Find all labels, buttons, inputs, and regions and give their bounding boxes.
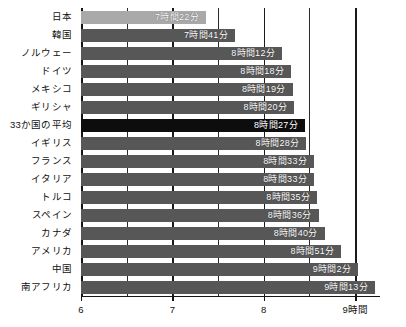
category-label: ドイツ: [41, 66, 72, 76]
bar: 8時間18分: [81, 65, 291, 78]
x-axis-tick: [172, 297, 173, 301]
bar-row: 8時間33分: [81, 173, 378, 186]
plot-area: 7時間22分7時間41分8時間12分8時間18分8時間19分8時間20分8時間2…: [81, 8, 378, 296]
category-label: カナダ: [41, 228, 72, 238]
category-label: トルコ: [41, 192, 72, 202]
x-axis-tick: [81, 297, 82, 301]
bar-value-label: 8時間36分: [268, 211, 312, 220]
bar-value-label: 8時間28分: [256, 139, 300, 148]
bar-row: 8時間20分: [81, 101, 378, 114]
category-label: イタリア: [31, 174, 72, 184]
bar-row: 8時間35分: [81, 191, 378, 204]
category-label: ギリシャ: [31, 102, 72, 112]
x-axis-tick-label: 9時間: [342, 305, 367, 315]
category-label: 日本: [52, 12, 72, 22]
bar-value-label: 8時間12分: [231, 49, 275, 58]
bar-row: 8時間18分: [81, 65, 378, 78]
bar-value-label: 8時間51分: [291, 247, 335, 256]
bar-row: 8時間40分: [81, 227, 378, 240]
category-label: フランス: [31, 156, 72, 166]
bar: 8時間35分: [81, 191, 317, 204]
x-axis-tick: [355, 297, 356, 301]
bar: 8時間20分: [81, 101, 294, 114]
bar: 8時間36分: [81, 209, 319, 222]
category-label: 韓国: [52, 30, 72, 40]
bar-row: 8時間28分: [81, 137, 378, 150]
bar: 7時間22分: [81, 11, 206, 24]
bar: 8時間28分: [81, 137, 306, 150]
bar-value-label: 8時間40分: [274, 229, 318, 238]
bar-row: 8時間33分: [81, 155, 378, 168]
sleep-time-bar-chart: 日本韓国ノルウェードイツメキシコギリシャ33か国の平均イギリスフランスイタリアト…: [0, 0, 406, 327]
bar: 8時間27分: [81, 119, 305, 132]
bar-row: 9時間13分: [81, 281, 378, 294]
bar-value-label: 8時間33分: [263, 175, 307, 184]
bar: 8時間40分: [81, 227, 325, 240]
category-label: メキシコ: [31, 84, 72, 94]
bar-value-label: 8時間20分: [243, 103, 287, 112]
bar-row: 7時間41分: [81, 29, 378, 42]
category-label: 33か国の平均: [10, 120, 72, 130]
bar-row: 8時間12分: [81, 47, 378, 60]
bar: 9時間2分: [81, 263, 358, 276]
category-label: ノルウェー: [21, 48, 72, 58]
bar-value-label: 8時間27分: [254, 121, 298, 130]
bar-row: 8時間27分: [81, 119, 378, 132]
bar: 8時間19分: [81, 83, 293, 96]
bar-value-label: 7時間22分: [155, 13, 199, 22]
x-axis-tick: [264, 297, 265, 301]
bar: 8時間33分: [81, 155, 314, 168]
category-axis-labels: 日本韓国ノルウェードイツメキシコギリシャ33か国の平均イギリスフランスイタリアト…: [0, 0, 78, 327]
bar: 9時間13分: [81, 281, 375, 294]
bar-row: 8時間36分: [81, 209, 378, 222]
bar: 8時間33分: [81, 173, 314, 186]
bar: 8時間51分: [81, 245, 341, 258]
category-label: イギリス: [31, 138, 72, 148]
category-label: 中国: [52, 264, 72, 274]
x-axis-tick-label: 7: [170, 305, 175, 315]
bar-value-label: 9時間13分: [324, 283, 368, 292]
bar: 8時間12分: [81, 47, 282, 60]
x-axis-tick-label: 6: [78, 305, 83, 315]
bar-value-label: 8時間18分: [240, 67, 284, 76]
bar-value-label: 9時間2分: [313, 265, 352, 274]
bar-value-label: 8時間33分: [263, 157, 307, 166]
category-label: アメリカ: [31, 246, 72, 256]
bar-value-label: 8時間35分: [266, 193, 310, 202]
bar-row: 8時間19分: [81, 83, 378, 96]
bar-row: 7時間22分: [81, 11, 378, 24]
bar: 7時間41分: [81, 29, 235, 42]
bar-row: 8時間51分: [81, 245, 378, 258]
category-label: 南アフリカ: [21, 282, 72, 292]
bar-row: 9時間2分: [81, 263, 378, 276]
category-label: スペイン: [32, 210, 72, 220]
x-axis-tick-label: 8: [261, 305, 266, 315]
x-axis: 6789時間: [81, 296, 380, 297]
bar-value-label: 7時間41分: [184, 31, 228, 40]
bar-value-label: 8時間19分: [242, 85, 286, 94]
